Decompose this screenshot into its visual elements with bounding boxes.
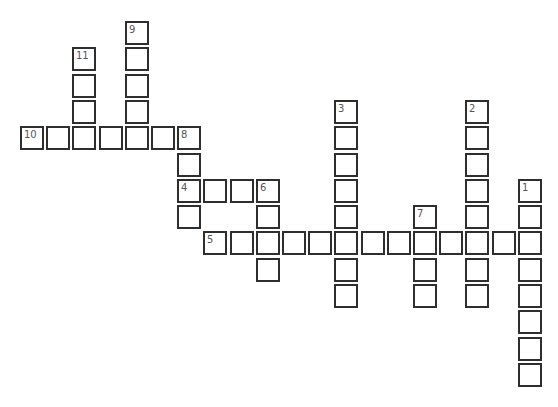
crossword-cell[interactable] bbox=[177, 153, 201, 177]
crossword-cell[interactable] bbox=[361, 231, 385, 255]
crossword-cell[interactable] bbox=[230, 179, 254, 203]
crossword-cell[interactable]: 8 bbox=[177, 126, 201, 150]
clue-number: 7 bbox=[417, 208, 423, 220]
crossword-cell[interactable] bbox=[518, 337, 542, 361]
crossword-cell[interactable] bbox=[125, 126, 149, 150]
crossword-cell[interactable]: 11 bbox=[72, 47, 96, 71]
crossword-cell[interactable] bbox=[256, 205, 280, 229]
crossword-cell[interactable] bbox=[256, 231, 280, 255]
clue-number: 11 bbox=[76, 50, 89, 62]
crossword-cell[interactable] bbox=[334, 126, 358, 150]
crossword-cell[interactable] bbox=[125, 100, 149, 124]
crossword-cell[interactable] bbox=[177, 205, 201, 229]
crossword-grid: 1234657891011 bbox=[0, 0, 558, 407]
crossword-cell[interactable] bbox=[413, 258, 437, 282]
crossword-cell[interactable] bbox=[203, 179, 227, 203]
crossword-cell[interactable] bbox=[334, 284, 358, 308]
crossword-cell[interactable]: 10 bbox=[20, 126, 44, 150]
clue-number: 3 bbox=[338, 103, 344, 115]
crossword-cell[interactable]: 6 bbox=[256, 179, 280, 203]
crossword-cell[interactable] bbox=[72, 100, 96, 124]
crossword-cell[interactable]: 7 bbox=[413, 205, 437, 229]
crossword-cell[interactable] bbox=[465, 258, 489, 282]
crossword-cell[interactable]: 9 bbox=[125, 21, 149, 45]
crossword-cell[interactable] bbox=[282, 231, 306, 255]
crossword-cell[interactable] bbox=[465, 126, 489, 150]
crossword-cell[interactable] bbox=[518, 231, 542, 255]
crossword-cell[interactable] bbox=[518, 363, 542, 387]
crossword-cell[interactable]: 1 bbox=[518, 179, 542, 203]
crossword-cell[interactable] bbox=[230, 231, 254, 255]
crossword-cell[interactable] bbox=[99, 126, 123, 150]
clue-number: 1 bbox=[522, 182, 528, 194]
crossword-cell[interactable] bbox=[72, 126, 96, 150]
crossword-cell[interactable] bbox=[256, 258, 280, 282]
crossword-cell[interactable] bbox=[308, 231, 332, 255]
crossword-cell[interactable] bbox=[465, 153, 489, 177]
crossword-cell[interactable] bbox=[413, 231, 437, 255]
clue-number: 4 bbox=[181, 182, 187, 194]
crossword-cell[interactable] bbox=[439, 231, 463, 255]
crossword-cell[interactable] bbox=[125, 47, 149, 71]
crossword-cell[interactable] bbox=[151, 126, 175, 150]
crossword-cell[interactable] bbox=[465, 284, 489, 308]
crossword-cell[interactable] bbox=[387, 231, 411, 255]
clue-number: 9 bbox=[129, 24, 135, 36]
clue-number: 8 bbox=[181, 129, 187, 141]
crossword-cell[interactable]: 3 bbox=[334, 100, 358, 124]
clue-number: 2 bbox=[469, 103, 475, 115]
crossword-cell[interactable] bbox=[72, 74, 96, 98]
crossword-cell[interactable] bbox=[334, 205, 358, 229]
clue-number: 6 bbox=[260, 182, 266, 194]
crossword-cell[interactable] bbox=[413, 284, 437, 308]
crossword-cell[interactable] bbox=[334, 179, 358, 203]
crossword-cell[interactable]: 2 bbox=[465, 100, 489, 124]
crossword-cell[interactable] bbox=[465, 205, 489, 229]
crossword-cell[interactable] bbox=[465, 179, 489, 203]
clue-number: 5 bbox=[207, 234, 213, 246]
crossword-cell[interactable] bbox=[518, 258, 542, 282]
crossword-cell[interactable] bbox=[465, 231, 489, 255]
crossword-cell[interactable] bbox=[125, 74, 149, 98]
crossword-cell[interactable] bbox=[492, 231, 516, 255]
crossword-cell[interactable] bbox=[334, 258, 358, 282]
crossword-cell[interactable] bbox=[518, 310, 542, 334]
crossword-cell[interactable] bbox=[46, 126, 70, 150]
crossword-cell[interactable] bbox=[334, 153, 358, 177]
clue-number: 10 bbox=[24, 129, 37, 141]
crossword-cell[interactable] bbox=[334, 231, 358, 255]
crossword-cell[interactable]: 4 bbox=[177, 179, 201, 203]
crossword-cell[interactable] bbox=[518, 205, 542, 229]
crossword-cell[interactable] bbox=[518, 284, 542, 308]
crossword-cell[interactable]: 5 bbox=[203, 231, 227, 255]
